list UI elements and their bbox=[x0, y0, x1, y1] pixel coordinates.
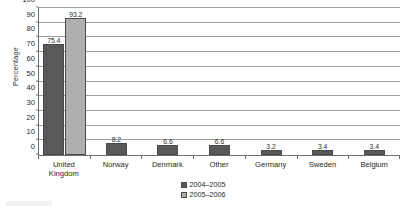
bar: 3.4 bbox=[364, 150, 385, 155]
bar: 93.2 bbox=[65, 18, 86, 155]
x-axis-label-line: Germany bbox=[245, 160, 297, 169]
bar: 8.2 bbox=[106, 143, 127, 155]
y-tick-label: 90 bbox=[1, 9, 35, 18]
x-tick-mark bbox=[141, 156, 142, 159]
x-axis-label: Belgium bbox=[348, 160, 400, 178]
bar-group: 6.6 bbox=[194, 8, 246, 155]
x-axis-labels: UnitedKingdomNorwayDenmarkOtherGermanySw… bbox=[38, 160, 400, 178]
legend-swatch bbox=[181, 192, 187, 198]
bar-value-label: 93.2 bbox=[69, 11, 82, 18]
y-tick-label: 0 bbox=[1, 142, 35, 151]
x-tick-mark bbox=[297, 156, 298, 159]
x-axis-label-line: Norway bbox=[90, 160, 142, 169]
y-tick-label: 50 bbox=[1, 68, 35, 77]
x-tick-mark bbox=[193, 156, 194, 159]
y-tick-label: 30 bbox=[1, 97, 35, 106]
bar-groups: 75.493.28.26.66.63.23.43.4 bbox=[39, 8, 400, 155]
legend-label: 2005–2006 bbox=[190, 190, 226, 199]
bar-chart-figure: Percentage 0102030405060708090100 75.493… bbox=[0, 0, 406, 209]
bar-value-label: 75.4 bbox=[47, 37, 60, 44]
page-artifact bbox=[6, 201, 52, 206]
bar-group: 6.6 bbox=[142, 8, 194, 155]
x-tick-mark bbox=[90, 156, 91, 159]
x-axis-label: Sweden bbox=[297, 160, 349, 178]
y-tick-label: 20 bbox=[1, 112, 35, 121]
legend-swatch bbox=[181, 182, 187, 188]
bar: 6.6 bbox=[209, 145, 230, 155]
bar-group: 8.2 bbox=[91, 8, 143, 155]
x-axis-label-line: Denmark bbox=[141, 160, 193, 169]
y-tick-label: 60 bbox=[1, 53, 35, 62]
plot-area: 0102030405060708090100 75.493.28.26.66.6… bbox=[38, 8, 400, 156]
y-tick-label: 40 bbox=[1, 83, 35, 92]
x-axis-label: Denmark bbox=[141, 160, 193, 178]
x-axis-label-line: United bbox=[38, 160, 90, 169]
y-tick-label: 80 bbox=[1, 24, 35, 33]
bar: 3.2 bbox=[261, 150, 282, 155]
x-axis-label: Germany bbox=[245, 160, 297, 178]
x-axis-label: Norway bbox=[90, 160, 142, 178]
x-axis-label-line: Other bbox=[193, 160, 245, 169]
y-tick-label: 100 bbox=[1, 0, 35, 4]
bar-group: 75.493.2 bbox=[39, 8, 91, 155]
x-axis-label-line: Kingdom bbox=[38, 169, 90, 178]
bar: 75.4 bbox=[43, 44, 64, 155]
bar-group: 3.2 bbox=[245, 8, 297, 155]
x-axis-label: UnitedKingdom bbox=[38, 160, 90, 178]
y-tick-label: 70 bbox=[1, 39, 35, 48]
bar-group: 3.4 bbox=[348, 8, 400, 155]
legend-label: 2004–2005 bbox=[190, 180, 226, 189]
bar-value-label: 3.2 bbox=[266, 143, 275, 150]
bar-group: 3.4 bbox=[297, 8, 349, 155]
x-tick-mark bbox=[245, 156, 246, 159]
legend-item[interactable]: 2005–2006 bbox=[181, 190, 226, 199]
x-tick-mark bbox=[348, 156, 349, 159]
bar: 3.4 bbox=[312, 150, 333, 155]
x-axis-label-line: Belgium bbox=[348, 160, 400, 169]
bar-value-label: 6.6 bbox=[215, 138, 224, 145]
legend-item[interactable]: 2004–2005 bbox=[181, 180, 226, 189]
x-axis-label-line: Sweden bbox=[297, 160, 349, 169]
bar-value-label: 3.4 bbox=[370, 143, 379, 150]
chart-legend: 2004–20052005–2006 bbox=[0, 180, 406, 199]
x-tick-mark bbox=[38, 156, 39, 159]
x-axis-label: Other bbox=[193, 160, 245, 178]
bar-value-label: 6.6 bbox=[163, 138, 172, 145]
y-tick-label: 10 bbox=[1, 127, 35, 136]
bar-value-label: 3.4 bbox=[318, 143, 327, 150]
bar-value-label: 8.2 bbox=[112, 136, 121, 143]
bar: 6.6 bbox=[157, 145, 178, 155]
x-tick-mark bbox=[399, 156, 400, 159]
